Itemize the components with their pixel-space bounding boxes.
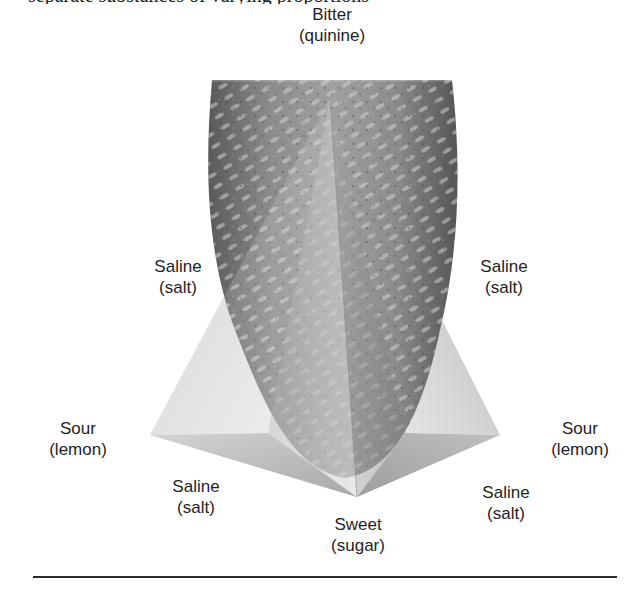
taste-substance: (lemon)	[538, 439, 622, 460]
taste-substance: (salt)	[140, 277, 216, 298]
taste-name: Sour	[36, 418, 120, 439]
taste-name: Saline	[140, 256, 216, 277]
taste-substance: (sugar)	[316, 535, 400, 556]
label-saline-upper-right: Saline (salt)	[466, 256, 542, 298]
horizontal-rule	[33, 576, 617, 578]
taste-name: Saline	[466, 256, 542, 277]
label-bitter: Bitter (quinine)	[284, 4, 380, 46]
taste-name: Saline	[156, 476, 236, 497]
taste-name: Sweet	[316, 514, 400, 535]
taste-name: Sour	[538, 418, 622, 439]
taste-name: Bitter	[284, 4, 380, 25]
taste-substance: (lemon)	[36, 439, 120, 460]
label-saline-upper-left: Saline (salt)	[140, 256, 216, 298]
taste-substance: (quinine)	[284, 25, 380, 46]
taste-name: Saline	[466, 482, 546, 503]
label-sour-right: Sour (lemon)	[538, 418, 622, 460]
label-sweet: Sweet (sugar)	[316, 514, 400, 556]
taste-substance: (salt)	[466, 503, 546, 524]
taste-substance: (salt)	[466, 277, 542, 298]
taste-substance: (salt)	[156, 497, 236, 518]
label-saline-lower-right: Saline (salt)	[466, 482, 546, 524]
label-saline-lower-left: Saline (salt)	[156, 476, 236, 518]
label-sour-left: Sour (lemon)	[36, 418, 120, 460]
